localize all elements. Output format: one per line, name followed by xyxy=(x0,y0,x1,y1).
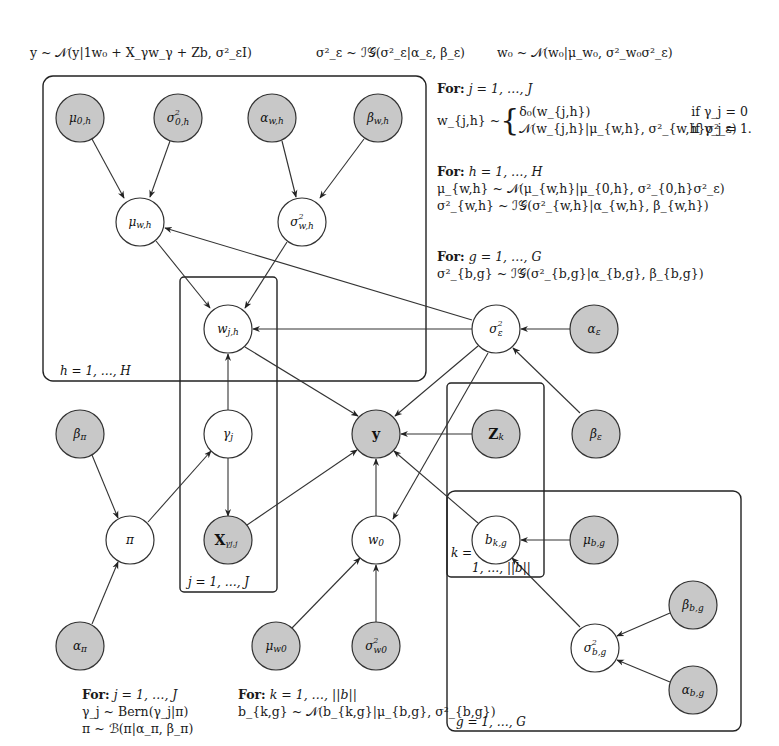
block-bottom-left: For: j = 1, …, J γ_j ~ Bern(γ_j|π) π ~ ℬ… xyxy=(82,686,193,737)
for-label: For: xyxy=(82,687,110,702)
plate-k-label-line2: 1, …, ||b|| xyxy=(472,561,531,575)
range: h = 1, …, H xyxy=(469,164,543,179)
range: g = 1, …, G xyxy=(469,249,542,264)
case2-expr: 𝒩(w_{j,h}|μ_{w,h}, σ²_{w,h}σ²_ε) xyxy=(519,120,669,137)
node-gamma-j: γj xyxy=(204,410,252,458)
for-label: For: xyxy=(437,81,465,96)
node-mu-0h: μ0,h xyxy=(56,94,104,142)
node-mu-wh: μw,h xyxy=(116,198,164,246)
node-alpha-wh: αw,h xyxy=(248,94,296,142)
node-pi: π xyxy=(106,516,154,564)
range: j = 1, …, J xyxy=(469,81,533,96)
node-beta-eps: βε xyxy=(572,410,620,458)
node-sigma2-bg: σ2b,g xyxy=(571,624,619,672)
mu-wh-equation: μ_{w,h} ~ 𝒩(μ_{w,h}|μ_{0,h}, σ²_{0,h}σ²_… xyxy=(437,180,725,197)
equation-w0: w₀ ~ 𝒩(w₀|μ_w₀, σ²_w₀σ²_ε) xyxy=(497,44,673,61)
case1-expr: δ₀(w_{j,h}) xyxy=(519,103,669,120)
node-beta-wh: βw,h xyxy=(354,94,402,142)
node-sigma2-w0: σ2w0 xyxy=(352,622,400,670)
node-beta-bg: βb,g xyxy=(669,581,717,629)
svg-text:π: π xyxy=(125,533,135,547)
plate-k-label-line1: k = xyxy=(451,546,472,560)
plate-j-label: j = 1, …, J xyxy=(185,575,250,589)
block-for-h: For: h = 1, …, H μ_{w,h} ~ 𝒩(μ_{w,h}|μ_{… xyxy=(437,163,725,214)
block-for-g: For: g = 1, …, G σ²_{b,g} ~ ℐ𝒢(σ²_{b,g}|… xyxy=(437,248,704,282)
node-mu-w0: μw0 xyxy=(252,622,300,670)
svg-text:y: y xyxy=(371,426,381,442)
node-sigma2-wh: σ2w,h xyxy=(278,198,326,246)
node-alpha-pi: απ xyxy=(56,622,104,670)
block-for-j: For: j = 1, …, J w_{j,h} ~ { δ₀(w_{j,h})… xyxy=(437,80,752,137)
node-beta-pi: βπ xyxy=(56,410,104,458)
for-label: For: xyxy=(238,687,266,702)
pi-equation: π ~ ℬ(π|α_π, β_π) xyxy=(82,720,193,737)
svg-text:σ2ε: σ2ε xyxy=(489,319,502,339)
node-sigma2-0h: σ20,h xyxy=(154,94,202,142)
node-mu-bg: μb,g xyxy=(570,516,618,564)
range: j = 1, …, J xyxy=(114,687,178,702)
range: k = 1, …, ||b|| xyxy=(270,687,357,702)
case1-cond: if γ_j = 0 xyxy=(691,103,748,120)
node-sigma2-eps: σ2ε xyxy=(472,305,520,353)
node-w-jh: wj,h xyxy=(204,305,252,353)
node-alpha-eps: αε xyxy=(570,305,618,353)
block-bottom-middle: For: k = 1, …, ||b|| b_{k,g} ~ 𝒩(b_{k,g}… xyxy=(238,686,496,720)
node-b-kg: bk,g xyxy=(472,516,520,564)
b-kg-equation: b_{k,g} ~ 𝒩(b_{k,g}|μ_{b,g}, σ²_{b,g}) xyxy=(238,703,496,720)
w-jh-lhs: w_{j,h} ~ xyxy=(437,112,500,129)
node-y: y xyxy=(352,410,400,458)
node-x-gamma-j: Xγj,j xyxy=(204,516,252,564)
node-z-k: Zk xyxy=(472,410,520,458)
for-label: For: xyxy=(437,164,465,179)
equation-sigma2-eps: σ²_ε ~ ℐ𝒢(σ²_ε|α_ε, β_ε) xyxy=(316,44,465,61)
case2-cond: if γ_j = 1. xyxy=(691,120,752,137)
sigma2-bg-equation: σ²_{b,g} ~ ℐ𝒢(σ²_{b,g}|α_{b,g}, β_{b,g}) xyxy=(437,265,704,282)
for-label: For: xyxy=(437,249,465,264)
node-w0: w0 xyxy=(352,516,400,564)
equation-y: y ~ 𝒩(y|1w₀ + X_γw_γ + Zb, σ²_εI) xyxy=(30,44,252,61)
sigma2-wh-equation: σ²_{w,h} ~ ℐ𝒢(σ²_{w,h}|α_{w,h}, β_{w,h}) xyxy=(437,197,725,214)
gamma-equation: γ_j ~ Bern(γ_j|π) xyxy=(82,703,193,720)
node-alpha-bg: αb,g xyxy=(669,666,717,714)
plate-h-label: h = 1, …, H xyxy=(60,364,131,378)
brace: { xyxy=(500,105,519,135)
